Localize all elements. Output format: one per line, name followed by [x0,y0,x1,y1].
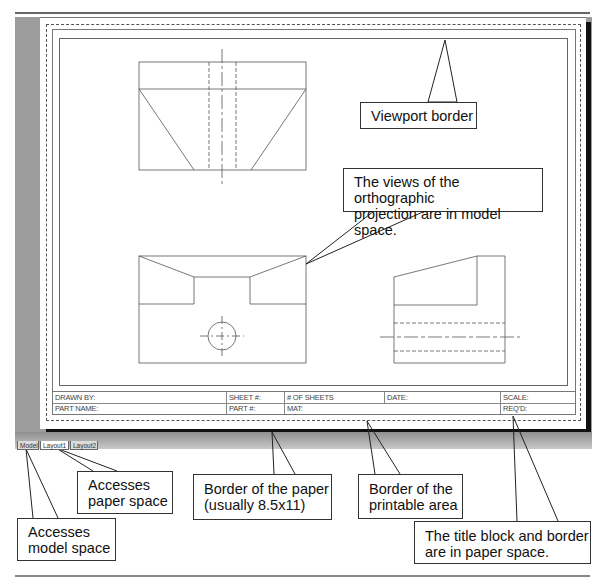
printable-area-leader [367,421,375,474]
callout-model-space-views: The views of the orthographic projection… [343,168,543,212]
callout-viewport-border-text: Viewport border [371,108,473,124]
callout-paper-space-line2: paper space [88,493,172,509]
printable-area-leader [367,421,400,474]
tab-layout2-label: Layout2 [73,442,96,449]
callout-accesses-model-space: Accesses model space [17,518,116,561]
callout-model-space-line1: Accesses [28,524,115,540]
callout-title-block-line1: The title block and border [425,528,590,544]
title-block-leader [513,416,558,521]
callout-model-space-views-line1: The views of the orthographic [354,174,542,206]
paper-border-leader [272,432,295,474]
callout-printable-area-line1: Border of the [369,481,462,497]
callout-paper-border-line2: (usually 8.5x11) [204,497,331,513]
callout-model-space-line2: model space [28,540,115,556]
paper-border-leader [272,432,274,474]
title-block-leader [513,416,517,521]
tab-layout2[interactable]: Layout2 [70,441,98,450]
callout-paper-space-line1: Accesses [88,477,172,493]
callout-paper-border-line1: Border of the paper [204,481,331,497]
front-view [139,256,306,363]
top-view [139,49,306,184]
tab-model-label: Model [20,442,38,449]
viewport-callout-tail [428,40,457,102]
callout-printable-area-line2: printable area [369,497,462,513]
callout-paper-border: Border of the paper (usually 8.5x11) [193,474,332,520]
tab-model[interactable]: Model [17,441,39,450]
callout-title-block-paper-space: The title block and border are in paper … [414,521,591,564]
callout-printable-area: Border of the printable area [358,474,463,519]
model-space-leader [26,449,33,518]
model-space-leader [26,449,58,518]
tab-layout1[interactable]: Layout1 [40,441,69,450]
autocad-layout-illustration: DRAWN BY: SHEET #: # OF SHEETS DATE: SCA… [0,0,607,580]
callout-model-space-views-line2: projection are in model space. [354,206,542,238]
right-side-view [380,256,520,363]
callout-viewport-border: Viewport border [360,102,477,129]
callout-title-block-line2: are in paper space. [425,544,590,560]
paper-space-leader [56,448,117,471]
callout-accesses-paper-space: Accesses paper space [77,471,173,514]
tab-layout1-label: Layout1 [43,442,66,449]
